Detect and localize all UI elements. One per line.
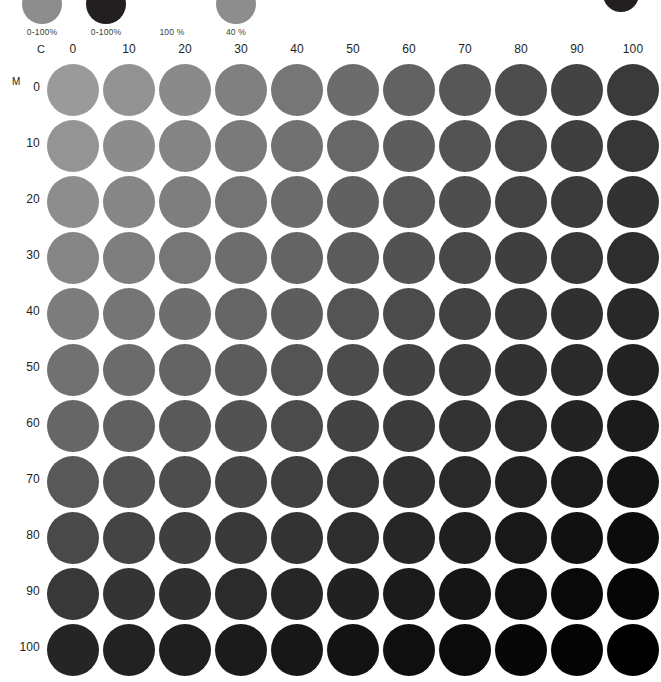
color-dot-c30-m20 (215, 176, 267, 228)
cmyk-dot-grid (45, 62, 657, 682)
dot-cell (101, 286, 157, 342)
column-header-c-50: 50 (325, 42, 381, 56)
dot-cell (269, 174, 325, 230)
dot-cell (157, 174, 213, 230)
dot-cell (101, 118, 157, 174)
color-dot-c50-m20 (327, 176, 379, 228)
dot-cell (45, 622, 101, 678)
color-dot-c20-m20 (159, 176, 211, 228)
color-dot-c100-m80 (607, 512, 659, 564)
dot-cell (381, 622, 437, 678)
column-header-c-10: 10 (101, 42, 157, 56)
dot-cell (213, 566, 269, 622)
dot-cell (101, 510, 157, 566)
row-header-m-30: 30 (0, 248, 40, 262)
color-dot-c0-m20 (47, 176, 99, 228)
color-dot-c30-m40 (215, 288, 267, 340)
dot-cell (549, 174, 605, 230)
dot-cell (381, 286, 437, 342)
dot-cell (213, 174, 269, 230)
legend-strip: 0-100%0-100%100 %40 % (0, 0, 657, 36)
legend-item: 40 % (204, 0, 268, 37)
dot-cell (437, 566, 493, 622)
color-dot-c70-m80 (439, 512, 491, 564)
legend-swatch-white (152, 0, 192, 24)
color-dot-c30-m80 (215, 512, 267, 564)
color-dot-c40-m100 (271, 624, 323, 676)
color-dot-c100-m10 (607, 120, 659, 172)
color-dot-c10-m80 (103, 512, 155, 564)
color-dot-c40-m10 (271, 120, 323, 172)
dot-cell (325, 174, 381, 230)
legend-swatch-gray (22, 0, 62, 24)
column-header-c-90: 90 (549, 42, 605, 56)
color-dot-c70-m90 (439, 568, 491, 620)
dot-cell (605, 342, 661, 398)
column-header-c-60: 60 (381, 42, 437, 56)
dot-cell (493, 62, 549, 118)
color-dot-c70-m60 (439, 400, 491, 452)
dot-cell (269, 454, 325, 510)
color-dot-c0-m40 (47, 288, 99, 340)
legend-caption: 100 % (140, 27, 204, 37)
color-dot-c30-m100 (215, 624, 267, 676)
color-dot-c60-m100 (383, 624, 435, 676)
color-dot-c60-m50 (383, 344, 435, 396)
color-dot-c20-m90 (159, 568, 211, 620)
color-dot-c70-m50 (439, 344, 491, 396)
color-dot-c100-m50 (607, 344, 659, 396)
row-header-m-90: 90 (0, 584, 40, 598)
dot-cell (549, 286, 605, 342)
color-dot-c20-m80 (159, 512, 211, 564)
color-dot-c90-m40 (551, 288, 603, 340)
dot-cell (325, 622, 381, 678)
color-dot-c90-m20 (551, 176, 603, 228)
dot-cell (437, 118, 493, 174)
dot-cell (437, 174, 493, 230)
row-header-m-100: 100 (0, 640, 40, 654)
color-dot-c20-m0 (159, 64, 211, 116)
color-dot-c20-m30 (159, 232, 211, 284)
color-dot-c10-m70 (103, 456, 155, 508)
color-dot-c70-m10 (439, 120, 491, 172)
color-dot-c20-m70 (159, 456, 211, 508)
dot-cell (325, 342, 381, 398)
color-dot-c30-m10 (215, 120, 267, 172)
color-dot-c80-m0 (495, 64, 547, 116)
dot-cell (325, 566, 381, 622)
dot-cell (213, 118, 269, 174)
dot-cell (101, 174, 157, 230)
color-dot-c10-m0 (103, 64, 155, 116)
color-dot-c10-m20 (103, 176, 155, 228)
color-dot-c60-m70 (383, 456, 435, 508)
dot-cell (101, 230, 157, 286)
dot-cell (101, 566, 157, 622)
color-dot-c30-m90 (215, 568, 267, 620)
dot-cell (213, 622, 269, 678)
color-dot-c70-m0 (439, 64, 491, 116)
color-dot-c10-m30 (103, 232, 155, 284)
legend-swatch-black (86, 0, 126, 24)
dot-cell (605, 510, 661, 566)
color-dot-c80-m90 (495, 568, 547, 620)
dot-cell (605, 118, 661, 174)
color-dot-c0-m10 (47, 120, 99, 172)
dot-cell (101, 62, 157, 118)
color-dot-c10-m60 (103, 400, 155, 452)
dot-cell (325, 230, 381, 286)
dot-cell (213, 454, 269, 510)
legend-item: 0-100% (74, 0, 138, 37)
dot-cell (437, 622, 493, 678)
color-dot-c50-m70 (327, 456, 379, 508)
color-dot-c60-m0 (383, 64, 435, 116)
dot-cell (549, 62, 605, 118)
color-dot-c100-m0 (607, 64, 659, 116)
color-dot-c70-m40 (439, 288, 491, 340)
dot-cell (213, 62, 269, 118)
color-dot-c0-m30 (47, 232, 99, 284)
color-dot-c70-m20 (439, 176, 491, 228)
color-dot-c50-m50 (327, 344, 379, 396)
color-dot-c30-m60 (215, 400, 267, 452)
color-dot-c50-m30 (327, 232, 379, 284)
dot-cell (493, 230, 549, 286)
